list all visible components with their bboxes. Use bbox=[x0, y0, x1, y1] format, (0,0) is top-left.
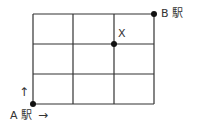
station-b-dot bbox=[151, 11, 157, 17]
station-a-dot bbox=[30, 101, 36, 107]
arrow-right-icon: → bbox=[38, 109, 48, 121]
arrow-up-icon: ↑ bbox=[19, 86, 29, 98]
station-b-label: B 駅 bbox=[161, 8, 183, 19]
point-x-dot bbox=[111, 41, 117, 47]
point-x-label: X bbox=[118, 28, 126, 39]
station-a-label: A 駅 bbox=[10, 110, 32, 121]
